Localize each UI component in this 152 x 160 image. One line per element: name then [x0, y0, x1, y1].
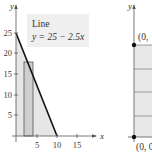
- origin-point-label: (0, 0: [136, 142, 152, 153]
- right-plot: y (0, (0, 0: [127, 1, 152, 153]
- x-tick-15: 15: [73, 140, 82, 150]
- legend-title: Line: [32, 19, 49, 29]
- point-origin: [132, 135, 136, 139]
- right-y-axis-label: y: [127, 1, 132, 11]
- y-tick-5: 5: [8, 110, 12, 120]
- x-tick-5: 5: [35, 140, 39, 150]
- right-y-axis-arrow-icon: [132, 4, 135, 9]
- left-plot: 25 20 15 10 5 5 10 15 y x Line y = 25 − …: [4, 1, 105, 150]
- y-tick-15: 15: [4, 69, 13, 79]
- x-axis-label: x: [99, 131, 104, 141]
- y-axis-label: y: [9, 1, 14, 11]
- y-tick-20: 20: [4, 48, 13, 58]
- y-axis-arrow-icon: [14, 4, 17, 9]
- point-top: [132, 43, 136, 47]
- legend-equation: y = 25 − 2.5x: [31, 32, 85, 42]
- chart-canvas: 25 20 15 10 5 5 10 15 y x Line y = 25 − …: [0, 0, 152, 160]
- x-axis-arrow-icon: [92, 134, 97, 137]
- shaded-rectangle: [134, 45, 152, 137]
- y-tick-25: 25: [4, 28, 13, 38]
- top-point-label: (0,: [138, 32, 148, 43]
- y-tick-10: 10: [4, 90, 13, 100]
- x-tick-10: 10: [53, 140, 62, 150]
